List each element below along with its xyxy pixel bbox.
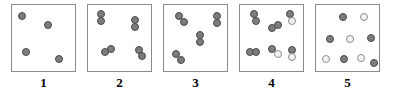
dot-dark — [97, 17, 105, 25]
panel-label-5: 5 — [315, 76, 380, 90]
dot-dark — [196, 38, 204, 46]
panel-label-3: 3 — [163, 76, 228, 90]
dot-dark — [131, 23, 139, 31]
dot-dark — [44, 21, 52, 29]
dot-dark — [180, 18, 188, 26]
dot-light — [346, 35, 354, 43]
dot-dark — [22, 48, 30, 56]
panel-label-1: 1 — [11, 76, 76, 90]
dot-dark — [138, 52, 146, 60]
panel-label-4: 4 — [239, 76, 304, 90]
panel-4 — [239, 4, 304, 72]
dispersion-panels-figure: 12345 — [0, 0, 394, 99]
panel-2 — [87, 4, 152, 72]
dot-dark — [252, 17, 260, 25]
dot-dark — [252, 48, 260, 56]
dot-light — [288, 53, 296, 61]
panel-3 — [163, 4, 228, 72]
dot-light — [360, 13, 368, 21]
dot-dark — [370, 59, 378, 67]
dot-dark — [274, 21, 282, 29]
dot-dark — [55, 55, 63, 63]
panel-5 — [315, 4, 380, 72]
dot-dark — [367, 34, 375, 42]
dot-light — [322, 55, 330, 63]
dot-light — [357, 54, 365, 62]
panel-label-2: 2 — [87, 76, 152, 90]
panel-1 — [11, 4, 76, 72]
dot-light — [274, 50, 282, 58]
dot-light — [288, 17, 296, 25]
dot-dark — [107, 45, 115, 53]
dot-dark — [339, 13, 347, 21]
dot-dark — [326, 35, 334, 43]
dot-dark — [18, 12, 26, 20]
dot-dark — [340, 55, 348, 63]
dot-dark — [177, 56, 185, 64]
dot-dark — [213, 19, 221, 27]
